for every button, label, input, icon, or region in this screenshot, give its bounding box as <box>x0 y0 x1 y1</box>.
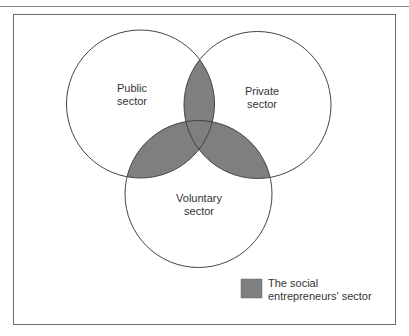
private-sector-label-line2: sector <box>247 98 277 110</box>
private-sector-label-line1: Private <box>245 85 279 97</box>
voluntary-sector-label-line2: sector <box>184 205 214 217</box>
venn-diagram: Public sector Private sector Voluntary s… <box>0 0 409 336</box>
legend-label-line2: entrepreneurs' sector <box>268 290 372 302</box>
legend-swatch <box>241 279 262 298</box>
public-sector-label-line1: Public <box>117 82 147 94</box>
public-sector-label-line2: sector <box>117 95 147 107</box>
voluntary-sector-label-line1: Voluntary <box>176 192 222 204</box>
legend-label-line1: The social <box>268 277 318 289</box>
